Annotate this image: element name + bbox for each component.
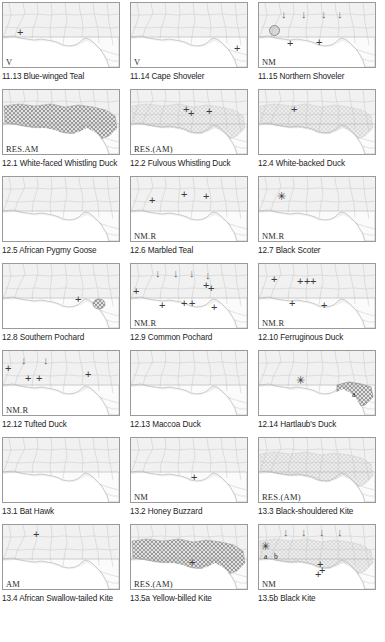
map-figure-cell: RES.(AM)13.3 Black-shouldered Kite — [258, 437, 376, 516]
species-caption: 12.13 Maccoa Duck — [130, 420, 248, 429]
species-caption: 12.12 Tufted Duck — [2, 420, 120, 429]
distribution-map-panel[interactable] — [130, 350, 248, 416]
species-caption: 13.2 Honey Buzzard — [130, 507, 248, 516]
species-caption: 12.8 Southern Pochard — [2, 333, 120, 342]
record-cross-marker: + — [315, 569, 321, 580]
distribution-map-panel[interactable]: +RES.(AM) — [130, 524, 248, 590]
map-figure-cell: ↓↓++++NM.R12.12 Tufted Duck — [2, 350, 120, 429]
record-star-marker: ✳ — [296, 375, 305, 386]
map-figure-cell: 13.1 Bat Hawk — [2, 437, 120, 516]
distribution-map-panel[interactable]: ↓↓↓↓++NM — [258, 2, 376, 68]
map-figure-cell: ✳NM.R12.7 Black Scoter — [258, 176, 376, 255]
status-code-label: RES.(AM) — [262, 493, 301, 502]
record-star-marker: ✳ — [277, 191, 286, 202]
distribution-map-panel[interactable]: ✳NM.R — [258, 176, 376, 242]
record-cross-marker: + — [310, 276, 316, 287]
distribution-map-panel[interactable]: ++++++NM.R — [258, 263, 376, 329]
migration-arrow-icon: ↓ — [21, 355, 27, 366]
record-cross-marker: + — [189, 557, 195, 568]
species-caption: 12.9 Common Pochard — [130, 333, 248, 342]
status-code-label: NM.R — [6, 406, 28, 415]
map-figure-cell: +12.4 White-backed Duck — [258, 89, 376, 168]
migration-arrow-icon: ↓ — [155, 268, 161, 279]
record-cross-marker: + — [203, 191, 209, 202]
status-code-label: NM — [134, 493, 148, 502]
record-cross-marker: + — [149, 195, 155, 206]
record-cross-marker: + — [289, 298, 295, 309]
record-cross-marker: + — [25, 373, 31, 384]
subspecies-label: a — [352, 391, 355, 399]
map-figure-cell: 12.5 African Pygmy Goose — [2, 176, 120, 255]
distribution-map-panel[interactable]: ↓↓↓↓+++++++NM.R — [130, 263, 248, 329]
distribution-map-panel[interactable]: RES.(AM) — [258, 437, 376, 503]
distribution-map-panel[interactable]: ✳a — [258, 350, 376, 416]
species-caption: 13.4 African Swallow-tailed Kite — [2, 594, 120, 603]
record-cross-marker: + — [181, 189, 187, 200]
record-cross-marker: + — [211, 302, 217, 313]
status-code-label: NM.R — [262, 232, 284, 241]
status-code-label: NM.R — [134, 319, 156, 328]
migration-arrow-icon: ↓ — [337, 527, 343, 538]
distribution-map-panel[interactable] — [2, 176, 120, 242]
species-caption: 12.5 African Pygmy Goose — [2, 246, 120, 255]
status-code-label: RES.(AM) — [134, 580, 173, 589]
status-code-label: NM — [262, 58, 276, 67]
migration-arrow-icon: ↓ — [321, 9, 327, 20]
species-caption: 12.4 White-backed Duck — [258, 159, 376, 168]
species-caption: 13.3 Black-shouldered Kite — [258, 507, 376, 516]
map-figure-cell: 12.13 Maccoa Duck — [130, 350, 248, 429]
map-figure-cell: +AM13.4 African Swallow-tailed Kite — [2, 524, 120, 603]
record-cross-marker: + — [271, 274, 277, 285]
record-cross-marker: + — [206, 106, 212, 117]
distribution-map-panel[interactable]: +AM — [2, 524, 120, 590]
status-code-label: V — [134, 58, 140, 67]
distribution-map-panel[interactable] — [2, 437, 120, 503]
record-cross-marker: + — [189, 298, 195, 309]
migration-arrow-icon: ↓ — [281, 9, 287, 20]
distribution-map-panel[interactable]: +++RES.(AM) — [130, 89, 248, 155]
species-caption: 11.13 Blue-winged Teal — [2, 72, 120, 81]
distribution-map-panel[interactable]: ↓↓↓↓✳ab+++NM — [258, 524, 376, 590]
species-caption: 12.7 Black Scoter — [258, 246, 376, 255]
status-code-label: NM — [262, 580, 276, 589]
migration-arrow-icon: ↓ — [173, 268, 179, 279]
distribution-map-panel[interactable]: +NM — [130, 437, 248, 503]
map-figure-cell: +V11.13 Blue-winged Teal — [2, 2, 120, 81]
distribution-map-panel[interactable]: +V — [2, 2, 120, 68]
record-cross-marker: + — [188, 108, 194, 119]
distribution-map-panel[interactable]: + — [2, 263, 120, 329]
distribution-map-panel[interactable]: +V — [130, 2, 248, 68]
record-cross-marker: + — [181, 298, 187, 309]
record-cross-marker: + — [5, 363, 11, 374]
migration-arrow-icon: ↓ — [43, 355, 49, 366]
map-figure-cell: ✳a12.14 Hartlaub's Duck — [258, 350, 376, 429]
record-cross-marker: + — [321, 300, 327, 311]
record-cross-marker: + — [159, 300, 165, 311]
map-figure-cell: +++NM.R12.6 Marbled Teal — [130, 176, 248, 255]
migration-arrow-icon: ↓ — [189, 268, 195, 279]
status-code-label: NM.R — [134, 232, 156, 241]
species-caption: 11.15 Northern Shoveler — [258, 72, 376, 81]
record-cross-marker: + — [33, 529, 39, 540]
status-code-label: RES.AM — [6, 145, 39, 154]
record-cross-marker: + — [75, 294, 81, 305]
record-cross-marker: + — [208, 283, 214, 294]
status-code-label: RES.(AM) — [134, 145, 173, 154]
species-caption: 12.2 Fulvous Whistling Duck — [130, 159, 248, 168]
record-cross-marker: + — [297, 276, 303, 287]
record-cross-marker: + — [36, 373, 42, 384]
distribution-map-panel[interactable]: ↓↓++++NM.R — [2, 350, 120, 416]
distribution-map-panel[interactable]: +++NM.R — [130, 176, 248, 242]
species-caption: 11.14 Cape Shoveler — [130, 72, 248, 81]
record-cross-marker: + — [287, 38, 293, 49]
migration-arrow-icon: ↓ — [319, 527, 325, 538]
species-caption: 13.1 Bat Hawk — [2, 507, 120, 516]
distribution-map-panel[interactable]: + — [258, 89, 376, 155]
distribution-map-panel[interactable]: RES.AM — [2, 89, 120, 155]
map-figure-cell: +++RES.(AM)12.2 Fulvous Whistling Duck — [130, 89, 248, 168]
record-cross-marker: + — [191, 472, 197, 483]
species-caption: 13.5b Black Kite — [258, 594, 376, 603]
subspecies-label: a — [264, 553, 267, 561]
map-figure-cell: +V11.14 Cape Shoveler — [130, 2, 248, 81]
map-figure-cell: ↓↓↓↓+++++++NM.R12.9 Common Pochard — [130, 263, 248, 342]
